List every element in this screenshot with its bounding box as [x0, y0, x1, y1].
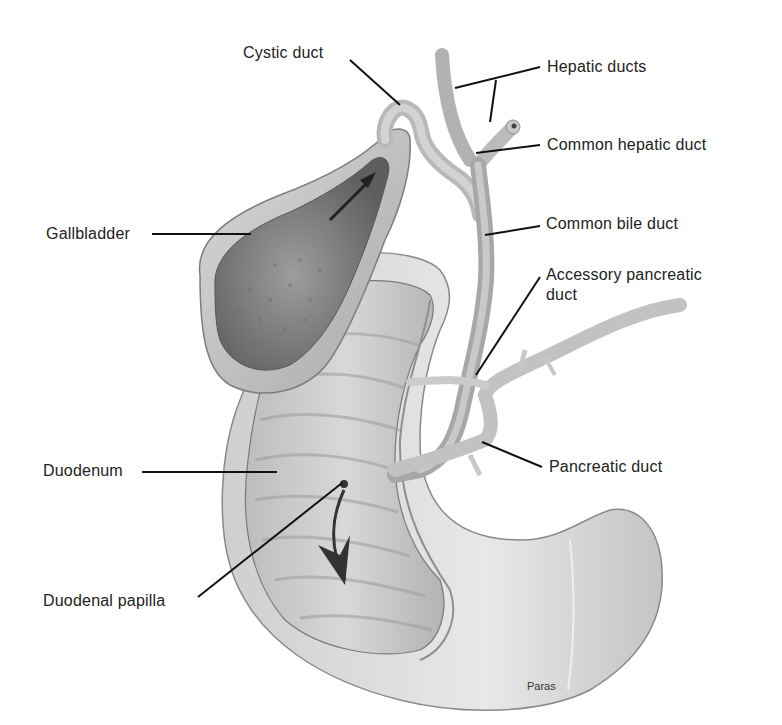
leader-common-bile-duct [485, 226, 540, 235]
label-duodenum: Duodenum [43, 462, 123, 480]
leader-hepatic-ducts [455, 67, 540, 88]
leader-pancreatic-duct [482, 442, 542, 467]
artist-signature: Paras [527, 680, 556, 692]
label-common-hepatic-duct: Common hepatic duct [547, 136, 706, 154]
label-hepatic-ducts: Hepatic ducts [547, 58, 647, 76]
label-accessory-pancreatic-duct-line1: Accessory pancreatic [546, 266, 702, 284]
label-gallbladder: Gallbladder [46, 225, 130, 243]
label-accessory-pancreatic-duct-line2: duct [546, 286, 702, 304]
anatomy-illustration [0, 0, 782, 725]
leader-hepatic-ducts-branch [490, 80, 496, 122]
label-accessory-pancreatic-duct: Accessory pancreatic duct [546, 266, 702, 304]
label-pancreatic-duct: Pancreatic duct [549, 458, 662, 476]
label-common-bile-duct: Common bile duct [546, 215, 678, 233]
leader-cystic-duct [350, 60, 400, 105]
label-duodenal-papilla: Duodenal papilla [43, 592, 165, 610]
label-cystic-duct: Cystic duct [243, 44, 323, 62]
